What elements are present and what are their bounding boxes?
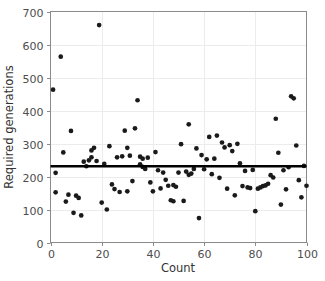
data-point	[304, 183, 309, 188]
data-point	[89, 155, 94, 160]
x-tick-label: 60	[198, 248, 212, 261]
data-point	[158, 186, 163, 191]
data-point	[53, 171, 58, 176]
data-point	[179, 142, 184, 147]
data-point	[117, 190, 122, 195]
data-point	[156, 168, 161, 173]
data-point	[220, 140, 225, 145]
data-point	[76, 196, 81, 201]
data-point	[186, 122, 191, 127]
data-point	[194, 146, 199, 151]
x-axis-title: Count	[161, 261, 196, 275]
data-point	[53, 190, 58, 195]
data-point	[153, 150, 158, 155]
data-point	[104, 207, 109, 212]
chart-canvas: 020406080100 0100200300400500600700 Coun…	[0, 0, 325, 281]
data-point	[94, 159, 99, 164]
data-point	[161, 170, 166, 175]
data-point	[151, 189, 156, 194]
data-point	[69, 129, 74, 134]
data-point	[148, 180, 153, 185]
y-tick-label: 0	[37, 238, 44, 251]
data-point	[284, 187, 289, 192]
data-point	[64, 199, 69, 204]
data-point	[140, 156, 145, 161]
data-point	[133, 126, 138, 131]
data-point	[71, 210, 76, 215]
data-point	[204, 157, 209, 162]
data-point	[120, 154, 125, 159]
data-point	[232, 193, 237, 198]
data-point	[212, 156, 217, 161]
y-tick-label: 100	[23, 205, 44, 218]
data-point	[197, 216, 202, 221]
x-tick-label: 80	[249, 248, 263, 261]
y-tick-label: 700	[23, 7, 44, 20]
data-point	[176, 170, 181, 175]
data-point	[110, 182, 115, 187]
data-point	[99, 200, 104, 205]
data-point	[281, 168, 286, 173]
data-point	[296, 178, 301, 183]
data-point	[115, 155, 120, 160]
data-point	[79, 213, 84, 218]
data-point	[51, 87, 56, 92]
data-point	[61, 150, 66, 155]
data-point	[130, 179, 135, 184]
data-point	[128, 153, 133, 158]
x-tick-label: 20	[96, 248, 110, 261]
data-point	[135, 98, 140, 103]
data-point	[235, 141, 240, 146]
data-point	[171, 199, 176, 204]
data-point	[202, 167, 207, 172]
scatter-plot-figure: 020406080100 0100200300400500600700 Coun…	[0, 0, 325, 281]
data-point	[230, 149, 235, 154]
y-tick-labels-group: 0100200300400500600700	[23, 7, 44, 251]
data-point	[107, 144, 112, 149]
data-point	[294, 143, 299, 148]
data-point	[66, 192, 71, 197]
data-point	[125, 145, 130, 150]
data-point	[248, 186, 253, 191]
data-point	[240, 184, 245, 189]
data-point	[81, 159, 86, 164]
data-point	[271, 175, 276, 180]
y-tick-label: 200	[23, 172, 44, 185]
data-point	[97, 23, 102, 28]
data-point	[227, 143, 232, 148]
data-point	[253, 209, 258, 214]
data-point	[92, 145, 97, 150]
data-point	[250, 168, 255, 173]
data-point	[225, 186, 230, 191]
x-tick-label: 0	[48, 248, 55, 261]
data-point	[181, 199, 186, 204]
y-axis-title: Required generations	[2, 65, 16, 188]
data-point	[273, 116, 278, 121]
y-tick-label: 400	[23, 106, 44, 119]
data-point	[163, 177, 168, 182]
data-point	[291, 96, 296, 101]
data-point	[189, 171, 194, 176]
x-tick-label: 100	[297, 248, 318, 261]
data-point	[199, 153, 204, 158]
y-tick-label: 500	[23, 73, 44, 86]
data-point	[215, 133, 220, 138]
data-point	[58, 54, 63, 59]
data-point	[122, 128, 127, 133]
plot-frame	[51, 12, 307, 243]
data-point	[299, 195, 304, 200]
data-point	[112, 187, 117, 192]
data-point	[207, 135, 212, 140]
gridlines-group	[51, 12, 307, 243]
data-point	[243, 169, 248, 174]
data-point	[209, 172, 214, 177]
data-point	[125, 189, 130, 194]
data-point	[279, 202, 284, 207]
data-point	[145, 155, 150, 160]
data-point	[166, 183, 171, 188]
data-point	[174, 184, 179, 189]
y-tick-label: 300	[23, 139, 44, 152]
data-point	[222, 145, 227, 150]
x-tick-labels-group: 020406080100	[48, 248, 318, 261]
data-point	[238, 161, 243, 166]
